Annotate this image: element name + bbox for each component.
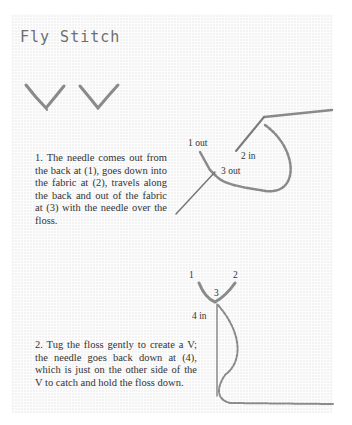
sample-fly-stitches: [26, 85, 118, 110]
step2-illustration: [199, 283, 333, 404]
step1-label-3-out: 3 out: [221, 166, 240, 176]
step1-text: 1. The needle comes out from the back at…: [35, 152, 167, 228]
step1-label-2-in: 2 in: [241, 151, 256, 161]
step2-text: 2. Tug the floss gently to create a V; t…: [35, 339, 197, 389]
step1-illustration: [176, 110, 332, 214]
step1-label-1-out: 1 out: [188, 138, 207, 148]
step2-label-3: 3: [214, 288, 219, 298]
step2-label-1: 1: [189, 270, 194, 280]
step2-label-2: 2: [233, 270, 238, 280]
step2-label-4-in: 4 in: [192, 311, 207, 321]
